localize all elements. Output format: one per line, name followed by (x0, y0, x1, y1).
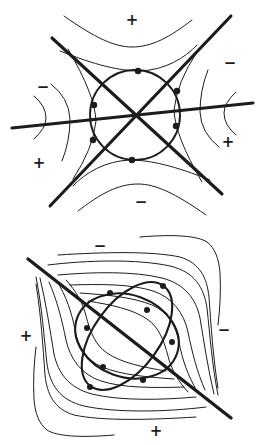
plus-sign: + (222, 133, 235, 151)
flow-curves-half (48, 236, 220, 395)
curve-intersection-dot (90, 137, 96, 143)
flow-curves-rotated (34, 277, 206, 436)
plus-sign: + (20, 327, 33, 345)
plus-sign: + (33, 154, 46, 172)
curve-intersection-dot (100, 364, 106, 370)
minus-sign: − (37, 78, 50, 96)
zero-line (28, 259, 231, 418)
curve-intersection-dot (140, 377, 146, 383)
plus-sign: + (126, 11, 139, 29)
curve-intersection-dot (144, 307, 150, 313)
figure-top-saddle: +−−++− (0, 0, 267, 223)
figure-panel: +−−++− (0, 0, 267, 445)
curve-intersection-dot (160, 283, 166, 289)
curve-intersection-dot (169, 339, 175, 345)
curve-intersection-dot (91, 102, 97, 108)
zero-lines (12, 16, 253, 206)
figure-bottom-ellipses: −+−+ (0, 223, 267, 445)
saddle-phase-portrait-svg: +−−++− (0, 0, 267, 223)
minus-sign: − (224, 54, 237, 72)
near-horizontal-line (12, 103, 253, 128)
minus-sign: − (94, 237, 107, 255)
level-curve (60, 45, 197, 71)
curve-intersection-dot (84, 325, 90, 331)
curve-intersection-dot (174, 88, 180, 94)
curve-intersection-dot (129, 157, 135, 163)
curve-intersection-dot (107, 290, 113, 296)
curve-intersection-dot (173, 123, 179, 129)
minus-sign: − (135, 193, 148, 211)
curve-intersection-dot (135, 68, 141, 74)
level-curve (224, 92, 236, 135)
minus-sign: − (218, 321, 231, 339)
plus-sign: + (150, 422, 163, 440)
curve-intersection-dot (87, 384, 93, 390)
degenerate-phase-portrait-svg: −+−+ (0, 223, 267, 445)
